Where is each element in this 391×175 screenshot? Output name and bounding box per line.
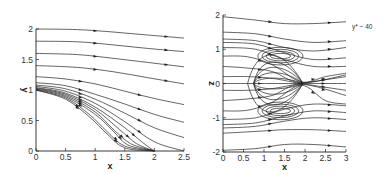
streamline [223, 130, 346, 134]
arrow-icon [258, 82, 262, 85]
arrow-icon [328, 110, 332, 113]
arrow-icon [322, 82, 326, 85]
y-tick-label: 2 [215, 10, 220, 20]
x-axis-label: x [282, 162, 287, 172]
figure: 00.511.522.500.511.52xy 00.511.522.53-2-… [0, 0, 391, 175]
arrow-icon [328, 40, 332, 43]
arrow-icon [322, 85, 326, 88]
y-axis-label: z [207, 81, 217, 86]
vortex-ring [270, 108, 291, 113]
arrow-icon [328, 57, 332, 60]
arrow-icon [328, 129, 332, 132]
x-tick-label: 3 [344, 153, 349, 163]
y-tick-label: 1 [215, 44, 220, 54]
streamline [223, 42, 346, 59]
annotation-text: y* ~ 40 [352, 23, 373, 31]
streamlines-right [223, 17, 346, 151]
x-tick-label: 2.5 [320, 153, 332, 163]
y-tick-label: -1 [212, 113, 220, 123]
axes-right: 00.511.522.53-2-1012xz [207, 10, 349, 172]
arrow-icon [268, 145, 272, 148]
arrow-icon [268, 129, 272, 132]
x-tick-label: 0 [221, 153, 226, 163]
streamline [223, 32, 346, 42]
streamline [223, 48, 346, 67]
arrow-icon [268, 35, 272, 38]
x-tick-label: 1 [262, 153, 267, 163]
y-tick-label: -2 [212, 147, 220, 157]
arrow-icon [268, 42, 272, 45]
x-tick-label: 0.5 [238, 153, 250, 163]
chart-streamlines-xz: 00.511.522.53-2-1012xz y* ~ 40 [0, 0, 391, 175]
arrow-icon [268, 123, 272, 126]
arrow-icon [328, 103, 332, 106]
arrow-icon [328, 65, 332, 68]
arrow-icon [328, 117, 332, 120]
streamline [223, 17, 346, 24]
x-tick-label: 2 [303, 153, 308, 163]
arrow-icon [328, 21, 332, 24]
